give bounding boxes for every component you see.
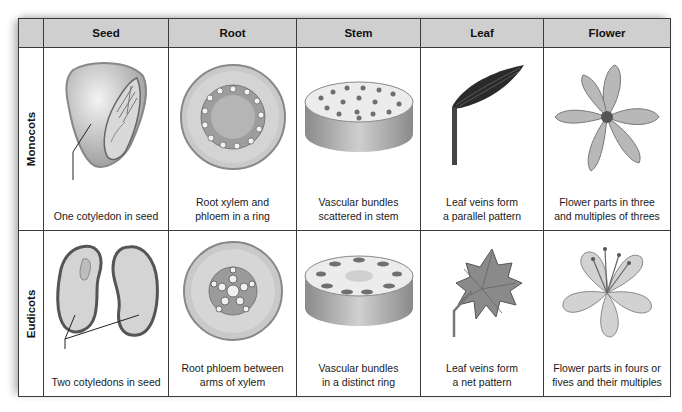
monocot-leaf-caption: Leaf veins form a parallel pattern <box>421 196 543 223</box>
eudicot-root-cell: Root phloem between arms of xylem <box>169 231 297 397</box>
monocot-stem-cell: Vascular bundles scattered in stem <box>297 48 421 231</box>
column-header-leaf: Leaf <box>421 19 544 48</box>
monocot-flower-caption: Flower parts in three and multiples of t… <box>544 196 670 223</box>
eudicot-root-caption: Root phloem between arms of xylem <box>169 362 296 389</box>
eudicot-flower-cell: Flower parts in fours or fives and their… <box>544 231 671 397</box>
eudicot-root-cross-section-icon <box>169 235 296 347</box>
five-petal-flower-icon <box>544 235 670 347</box>
eudicot-leaf-cell: Leaf veins form a net pattern <box>421 231 544 397</box>
monocot-flower-cell: Flower parts in three and multiples of t… <box>544 48 671 231</box>
monocot-seed-caption: One cotyledon in seed <box>44 210 168 224</box>
column-header-seed: Seed <box>44 19 169 48</box>
eudicot-stem-cell: Vascular bundles in a distinct ring <box>297 231 421 397</box>
header-row: Seed Root Stem Leaf Flower <box>19 19 671 48</box>
eudicot-stem-cross-section-icon <box>297 235 420 347</box>
parallel-vein-leaf-icon <box>421 52 543 182</box>
eudicot-stem-caption: Vascular bundles in a distinct ring <box>297 362 420 389</box>
row-label-monocots: Monocots <box>19 48 44 231</box>
monocot-seed-cell: One cotyledon in seed <box>44 48 169 231</box>
net-vein-maple-leaf-icon <box>421 235 543 347</box>
column-header-flower: Flower <box>544 19 671 48</box>
eudicot-flower-caption: Flower parts in fours or fives and their… <box>544 362 670 389</box>
monocot-stem-caption: Vascular bundles scattered in stem <box>297 196 420 223</box>
eudicots-row: Eudicots Two cotyledons in seed <box>19 231 671 397</box>
monocot-root-cross-section-icon <box>169 52 296 182</box>
row-label-eudicots: Eudicots <box>19 231 44 397</box>
monocot-root-cell: Root xylem and phloem in a ring <box>169 48 297 231</box>
monocot-stem-cross-section-icon <box>297 52 420 182</box>
eudicot-seed-cell: Two cotyledons in seed <box>44 231 169 397</box>
eudicot-bean-seed-icon <box>44 235 168 353</box>
monocot-seed-icon <box>44 52 168 182</box>
monocot-eudicot-comparison-table: Seed Root Stem Leaf Flower Monocots <box>18 18 670 396</box>
lily-flower-icon <box>544 52 670 182</box>
corner-header <box>19 19 44 48</box>
column-header-stem: Stem <box>297 19 421 48</box>
column-header-root: Root <box>169 19 297 48</box>
monocots-row: Monocots One cotyledon in seed <box>19 48 671 231</box>
monocot-leaf-cell: Leaf veins form a parallel pattern <box>421 48 544 231</box>
eudicot-seed-caption: Two cotyledons in seed <box>44 376 168 390</box>
monocot-root-caption: Root xylem and phloem in a ring <box>169 196 296 223</box>
eudicot-leaf-caption: Leaf veins form a net pattern <box>421 362 543 389</box>
